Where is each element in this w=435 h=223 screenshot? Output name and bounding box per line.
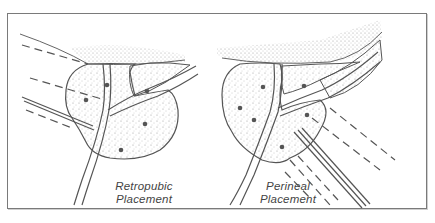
retropubic-label-line1: Retropubic	[98, 180, 190, 193]
prostate-diagram	[0, 0, 435, 223]
illustration-figure: Retropubic Placement Perineal Placement	[0, 0, 435, 223]
perineal-label-line1: Perineal	[247, 180, 329, 193]
retropubic-label: Retropubic Placement	[98, 180, 190, 206]
perineal-label-line2: Placement	[247, 193, 329, 206]
perineal-label: Perineal Placement	[247, 180, 329, 206]
pubic-bone-shading	[217, 20, 382, 64]
retropubic-label-line2: Placement	[98, 193, 190, 206]
